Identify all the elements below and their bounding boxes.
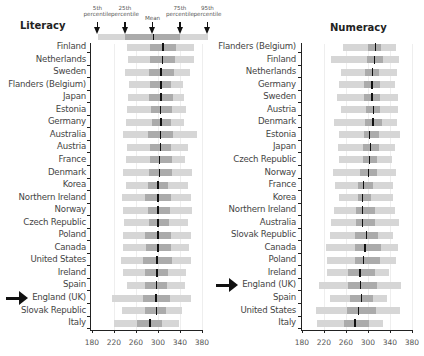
y-tick (87, 140, 90, 141)
x-tick-label: 380 (400, 338, 424, 347)
category-label: Spain (63, 279, 86, 289)
category-label: Canada (264, 242, 296, 252)
category-label: Denmark (48, 167, 86, 177)
category-label: Finland (57, 41, 86, 51)
highlight-arrow-icon (229, 278, 238, 292)
category-label: Korea (63, 179, 86, 189)
bar-mean (370, 143, 371, 151)
y-tick (87, 127, 90, 128)
bar-mean (157, 244, 158, 252)
bar-mean (162, 56, 163, 64)
category-label: United States (30, 254, 86, 264)
bar-mean (156, 256, 157, 264)
bar-mean (156, 307, 157, 315)
bar-mean (372, 118, 373, 126)
category-label: Ireland (268, 267, 296, 277)
x-tick-label: 340 (168, 338, 192, 347)
category-label: Northern Ireland (19, 192, 86, 202)
y-tick (87, 215, 90, 216)
bar-mean (373, 106, 374, 114)
y-tick (298, 178, 301, 179)
category-label: Austria (57, 141, 86, 151)
y-tick (87, 265, 90, 266)
y-tick (87, 240, 90, 241)
bar-mean (371, 81, 372, 89)
x-tick (202, 330, 203, 333)
y-tick (87, 328, 90, 329)
category-label: Australia (50, 129, 86, 139)
bar-inner (347, 307, 376, 314)
y-tick (298, 77, 301, 78)
bar-mean (157, 206, 158, 214)
bar-mean (359, 269, 360, 277)
y-tick (298, 303, 301, 304)
bar-inner (356, 219, 375, 226)
y-tick (298, 290, 301, 291)
category-label: France (59, 154, 86, 164)
category-label: Slovak Republic (21, 305, 86, 315)
category-label: Netherlands (36, 54, 86, 64)
legend-arrow-icon (204, 27, 210, 34)
bar-mean (155, 294, 156, 302)
bar-mean (159, 156, 160, 164)
category-label: Japan (273, 141, 296, 151)
y-tick (87, 152, 90, 153)
y-tick (87, 316, 90, 317)
category-label: England (UK) (242, 279, 296, 289)
y-tick (298, 90, 301, 91)
bar-inner (348, 282, 377, 289)
bar-inner (344, 320, 369, 327)
y-tick (298, 165, 301, 166)
bar-mean (363, 181, 364, 189)
x-axis (301, 330, 413, 331)
bar-mean (363, 256, 364, 264)
legend-bar-mean (153, 34, 154, 40)
x-tick (92, 330, 93, 333)
category-label: Korea (273, 192, 296, 202)
bar-mean (362, 219, 363, 227)
y-tick (298, 190, 301, 191)
category-label: Norway (265, 167, 296, 177)
y-tick (87, 290, 90, 291)
category-label: Japan (63, 91, 86, 101)
x-tick (412, 330, 413, 333)
category-label: United States (240, 305, 296, 315)
y-tick (87, 65, 90, 66)
bar-mean (360, 281, 361, 289)
category-label: Germany (48, 116, 86, 126)
legend-label-4: 95th percentile (188, 5, 228, 17)
bar-mean (358, 307, 359, 315)
category-label: Australia (260, 217, 296, 227)
bar-inner (364, 131, 379, 138)
bar-mean (362, 194, 363, 202)
category-label: Sweden (53, 66, 86, 76)
bar-inner (358, 194, 371, 201)
bar-mean (368, 169, 369, 177)
category-label: England (UK) (32, 292, 86, 302)
bar-inner (150, 156, 171, 163)
bar-mean (369, 156, 370, 164)
bar-inner (358, 182, 374, 189)
x-tick (180, 330, 181, 333)
y-tick (298, 152, 301, 153)
legend-arrow-icon (149, 27, 155, 34)
category-label: Italy (278, 317, 296, 327)
y-axis (90, 43, 91, 331)
y-tick (298, 253, 301, 254)
bar-inner (149, 169, 172, 176)
x-tick-label: 260 (334, 338, 358, 347)
category-label: Estonia (56, 104, 86, 114)
y-tick (87, 90, 90, 91)
x-tick (136, 330, 137, 333)
x-tick (324, 330, 325, 333)
bar-inner (355, 257, 380, 264)
y-tick (87, 253, 90, 254)
category-label: Northern Ireland (229, 204, 296, 214)
y-tick (87, 278, 90, 279)
y-tick (298, 278, 301, 279)
y-tick (298, 140, 301, 141)
bar-mean (157, 181, 158, 189)
category-label: Poland (59, 229, 87, 239)
bar-mean (372, 68, 373, 76)
category-label: Slovak Republic (231, 229, 296, 239)
